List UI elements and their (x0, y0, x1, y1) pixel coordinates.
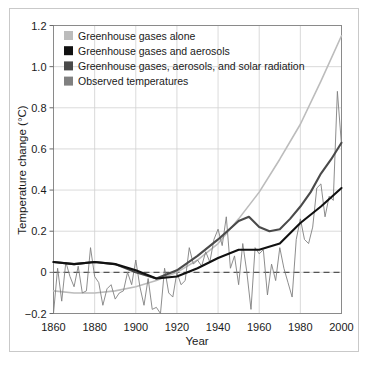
y-tick-label: 0 (40, 266, 46, 278)
legend-swatch-3 (64, 77, 73, 86)
x-axis-tick-labels: 18601880190019201940196019802000 (41, 321, 353, 333)
x-tick-label: 1980 (288, 321, 312, 333)
legend-swatch-1 (64, 46, 73, 55)
figure-root: 18601880190019201940196019802000 −0.200.… (0, 0, 373, 366)
x-tick-label: 1880 (82, 321, 106, 333)
legend-label-2: Greenhouse gases, aerosols, and solar ra… (78, 60, 305, 72)
x-tick-label: 1960 (247, 321, 271, 333)
x-tick-label: 1860 (41, 321, 65, 333)
y-axis-tick-labels: −0.200.20.40.60.81.01.2 (25, 20, 54, 320)
legend-label-3: Observed temperatures (78, 75, 188, 87)
x-tick-label: 2000 (329, 321, 353, 333)
legend-label-0: Greenhouse gases alone (78, 30, 195, 42)
legend-swatch-2 (64, 61, 73, 70)
series-line-2 (54, 143, 342, 279)
y-tick-label: 0.8 (31, 102, 46, 114)
legend-label-1: Greenhouse gases and aerosols (78, 45, 230, 57)
climate-temperature-line-chart: 18601880190019201940196019802000 −0.200.… (0, 0, 373, 366)
legend-swatch-0 (64, 31, 73, 40)
x-tick-label: 1900 (124, 321, 148, 333)
x-axis-title: Year (185, 335, 208, 347)
y-tick-label: 0.6 (31, 143, 46, 155)
series-line-1 (54, 188, 342, 279)
y-tick-label: 0.4 (31, 184, 46, 196)
y-tick-label: 1.2 (31, 20, 46, 32)
y-axis-title: Temperature change (°C) (16, 105, 28, 234)
x-tick-label: 1940 (206, 321, 230, 333)
chart-legend: Greenhouse gases aloneGreenhouse gases a… (64, 30, 305, 88)
y-tick-label: 1.0 (31, 61, 46, 73)
y-tick-label: −0.2 (25, 308, 47, 320)
series-line-3 (54, 91, 342, 313)
y-tick-label: 0.2 (31, 225, 46, 237)
x-tick-label: 1920 (165, 321, 189, 333)
